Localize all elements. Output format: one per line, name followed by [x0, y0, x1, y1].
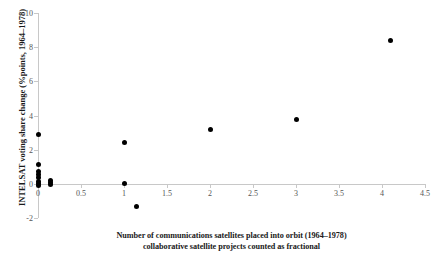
y-tick-label: 0 [29, 179, 33, 188]
x-tick-mark [253, 184, 254, 188]
x-axis-title-line-1: Number of communications satellites plac… [38, 230, 425, 241]
y-tick-mark [34, 47, 38, 48]
data-point [36, 183, 41, 188]
data-point [208, 127, 213, 132]
x-tick-label: 4.5 [420, 189, 430, 198]
x-tick-mark [425, 184, 426, 188]
y-axis-title: INTELSAT voting share change (%points, 1… [14, 0, 30, 215]
data-point [294, 117, 299, 122]
x-tick-mark [296, 184, 297, 188]
y-tick-label: 4 [29, 111, 33, 120]
x-axis-title-line-2: collaborative satellite projects counted… [38, 241, 425, 252]
data-point [48, 182, 53, 187]
x-tick-mark [339, 184, 340, 188]
x-tick-mark [210, 184, 211, 188]
data-point [122, 140, 127, 145]
data-point [36, 132, 41, 137]
x-axis-title: Number of communications satellites plac… [38, 230, 425, 252]
x-tick-label: 1 [122, 189, 126, 198]
x-tick-label: 1.5 [162, 189, 172, 198]
y-tick-mark [34, 116, 38, 117]
y-tick-mark [34, 218, 38, 219]
data-point [388, 38, 393, 43]
y-tick-mark [34, 13, 38, 14]
x-tick-label: 2 [208, 189, 212, 198]
y-tick-label: 6 [29, 77, 33, 86]
data-point [122, 181, 127, 186]
x-tick-mark [167, 184, 168, 188]
x-tick-label: 0 [36, 189, 40, 198]
x-tick-label: 2.5 [248, 189, 258, 198]
y-tick-mark [34, 150, 38, 151]
y-tick-label: 2 [29, 145, 33, 154]
x-tick-label: 3.5 [334, 189, 344, 198]
plot-area: -20246810 00.511.522.533.544.5 [38, 13, 425, 218]
y-tick-mark [34, 81, 38, 82]
data-point [36, 162, 41, 167]
x-tick-label: 3 [294, 189, 298, 198]
data-point [134, 204, 139, 209]
scatter-chart: INTELSAT voting share change (%points, 1… [0, 0, 431, 261]
x-tick-mark [382, 184, 383, 188]
x-tick-label: 0.5 [76, 189, 86, 198]
y-tick-label: 10 [25, 9, 33, 18]
x-axis-line [38, 184, 425, 185]
x-tick-mark [81, 184, 82, 188]
y-tick-label: -2 [26, 214, 33, 223]
y-tick-label: 8 [29, 43, 33, 52]
x-tick-label: 4 [380, 189, 384, 198]
